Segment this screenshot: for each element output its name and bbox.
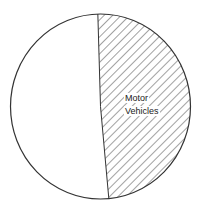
slice-label-motor-vehicles-line2: Vehicles [125, 106, 159, 116]
slice-label-motor-vehicles-line1: Motor [125, 93, 148, 103]
pie-chart: Motor Vehicles [0, 0, 201, 212]
pie-slice-other [11, 14, 109, 199]
pie-slices [11, 14, 191, 199]
